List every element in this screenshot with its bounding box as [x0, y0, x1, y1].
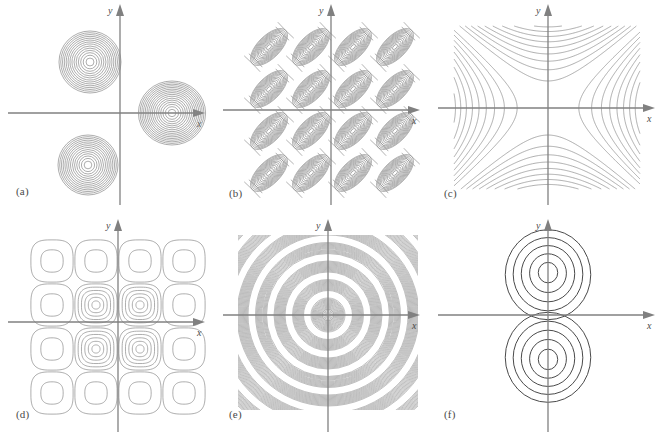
contour-ring	[374, 152, 417, 195]
contour-ring	[85, 382, 107, 404]
contour-ring	[288, 24, 334, 70]
saddle-arc	[278, 22, 294, 38]
contour-ring	[372, 24, 418, 70]
contour-ring	[297, 159, 325, 187]
contour-ring	[129, 250, 151, 272]
contour-ring	[308, 128, 315, 135]
contour-ring	[374, 26, 417, 69]
contour-ring	[78, 331, 114, 367]
contour-ring	[86, 58, 94, 66]
contour-ring	[255, 159, 283, 187]
contour-ring	[244, 64, 293, 113]
contour-ring	[61, 33, 120, 92]
contour-ring	[246, 24, 292, 70]
contour-ring	[60, 137, 117, 194]
contour-ring	[248, 26, 291, 69]
contour-ring	[374, 68, 417, 111]
contour-ring	[332, 68, 375, 111]
contour-ring	[173, 250, 195, 272]
panel-b: xy (b)	[215, 0, 430, 215]
contour-ring	[290, 68, 333, 111]
contour-ring	[255, 75, 283, 103]
contour-ring	[392, 44, 399, 51]
axes-group: xy	[438, 4, 655, 205]
contour-ring	[308, 170, 315, 177]
y-axis-arrowhead	[327, 4, 335, 16]
panel-b-plot: xy	[215, 0, 430, 215]
saddle-arc	[370, 140, 386, 156]
saddle-arc	[244, 140, 260, 156]
contour-ring	[374, 110, 417, 153]
contour-ring	[41, 338, 63, 360]
panel-f-plot: xy	[430, 215, 665, 442]
contours-concentric-dense-rings	[215, 215, 430, 442]
x-axis-arrowhead	[408, 106, 420, 114]
contour-ring	[286, 64, 335, 113]
saddle-arc	[362, 64, 378, 80]
y-axis-label: y	[315, 220, 321, 231]
panel-b-label: (b)	[229, 187, 242, 199]
contour-ring	[255, 117, 283, 145]
panel-e-plot: xy	[215, 215, 430, 442]
contour-ring	[41, 382, 63, 404]
contour-ring	[330, 108, 376, 154]
contour-ring	[41, 294, 63, 316]
saddle-arc	[362, 148, 378, 164]
contour-ring	[370, 106, 419, 155]
y-axis-label: y	[535, 5, 541, 16]
contour-ring	[136, 301, 144, 309]
contour-ring	[248, 152, 291, 195]
x-axis-arrowhead	[643, 311, 655, 319]
panel-f: xy (f)	[430, 215, 665, 442]
contour-ring	[308, 86, 315, 93]
contour-ring	[81, 158, 94, 171]
contour-ring	[328, 64, 377, 113]
contour-ring	[381, 75, 409, 103]
contour-ring	[266, 170, 273, 177]
contour-ring	[63, 35, 118, 90]
contour-ring	[350, 170, 357, 177]
contour-ring	[75, 152, 102, 179]
contour-ring	[81, 334, 110, 363]
saddle-arc	[404, 22, 420, 38]
contour-ring	[31, 372, 73, 414]
contour-ring	[74, 46, 106, 78]
x-axis-label: x	[411, 320, 417, 331]
contour-ring	[266, 86, 273, 93]
y-axis-label: y	[318, 5, 324, 16]
contour-ring	[75, 240, 117, 282]
contour-ring	[266, 128, 273, 135]
contour-ring	[122, 287, 158, 323]
contour-ring	[244, 106, 293, 155]
contour-ring	[328, 148, 377, 197]
contour-ring	[332, 152, 375, 195]
saddle-arc	[286, 56, 302, 72]
saddle-arc	[320, 106, 336, 122]
saddle-arc	[244, 98, 260, 114]
contour-ring	[248, 110, 291, 153]
y-axis-arrowhead	[544, 4, 552, 16]
saddle-arc	[370, 98, 386, 114]
contour-ring	[392, 86, 399, 93]
saddle-arc	[286, 98, 302, 114]
contour-ring	[381, 33, 409, 61]
x-axis-label: x	[196, 327, 202, 338]
contour-ring	[290, 152, 333, 195]
panel-e-label: (e)	[229, 408, 242, 420]
panel-d: xy (d)	[0, 215, 215, 442]
saddle-arc	[404, 64, 420, 80]
contour-ring	[173, 382, 195, 404]
contour-ring	[297, 33, 325, 61]
contour-ring	[286, 106, 335, 155]
panel-d-label: (d)	[16, 408, 29, 420]
contour-ring	[122, 331, 158, 367]
y-axis-label: y	[107, 5, 113, 16]
x-axis-label: x	[646, 113, 652, 124]
contour-ring	[370, 22, 419, 71]
contour-ring	[339, 159, 367, 187]
contour-ring	[381, 159, 409, 187]
contour-ring	[31, 240, 73, 282]
contour-ring	[72, 44, 108, 80]
contour-ring	[332, 26, 375, 69]
contour-ring	[244, 148, 293, 197]
